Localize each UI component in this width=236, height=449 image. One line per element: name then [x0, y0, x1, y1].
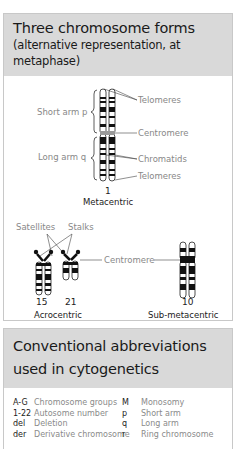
abbr-value: Autosome number	[34, 409, 122, 420]
short-arm-label: Short arm p	[37, 107, 87, 117]
acrocentric-chromosome-21	[61, 250, 80, 280]
long-arm-label: Long arm q	[38, 152, 86, 162]
chromosome-number-10: 10	[182, 297, 194, 307]
abbr-value: Chromosome groups	[34, 398, 122, 409]
abbr-value: Monosomy	[141, 398, 184, 409]
abbr-key: M	[122, 398, 141, 409]
chromosome-number-15: 15	[36, 297, 47, 307]
abbr-key: A-G	[13, 398, 34, 409]
centromere-label: Centromere	[138, 128, 188, 138]
abbr-key: der	[13, 430, 34, 441]
abbr-value: Derivative chromosome	[34, 430, 122, 441]
abbr-key: q	[122, 419, 141, 430]
acrocentric-caption: Acrocentric	[34, 310, 82, 320]
chromosome-number-1: 1	[105, 186, 111, 196]
telomeres-bottom-label: Telomeres	[137, 171, 182, 181]
abbr-value: Deletion	[34, 419, 122, 430]
satellites-label: Satellites	[16, 222, 56, 232]
acrocentric-chromosome-15	[34, 250, 53, 295]
abbr-value: Ring chromosome	[141, 430, 213, 441]
table-row: del Deletion q Long arm	[13, 419, 228, 430]
chromosome-number-21: 21	[65, 297, 76, 307]
centromere-label-2: Centromere	[104, 255, 154, 265]
long-arm-brace	[91, 137, 97, 180]
abbr-key: p	[122, 409, 141, 420]
abbr-value: Short arm	[141, 409, 181, 420]
abbr-key: del	[13, 419, 34, 430]
telomeres-top-label: Telomeres	[137, 95, 182, 105]
abbreviations-table: A-G Chromosome groups M Monosomy 1-22 Au…	[13, 398, 228, 440]
abbr-value: Long arm	[141, 419, 179, 430]
submetacentric-chromosome-10	[180, 242, 195, 298]
metacentric-chromosome	[100, 89, 115, 181]
table-row: A-G Chromosome groups M Monosomy	[13, 398, 228, 409]
chromatids-label: Chromatids	[138, 154, 187, 164]
submetacentric-caption: Sub-metacentric	[148, 310, 219, 320]
metacentric-caption: Metacentric	[83, 197, 134, 207]
table-row: der Derivative chromosome r Ring chromos…	[13, 430, 228, 441]
short-arm-brace	[91, 90, 97, 133]
table-row: 1-22 Autosome number p Short arm	[13, 409, 228, 420]
abbr-key: r	[122, 430, 141, 441]
stalks-label: Stalks	[68, 222, 94, 232]
abbr-key: 1-22	[13, 409, 34, 420]
